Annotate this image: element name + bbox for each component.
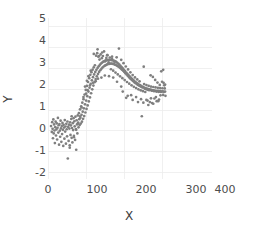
scatter-point (69, 121, 72, 124)
data-points (50, 47, 167, 160)
scatter-point (65, 128, 68, 131)
y-tick-label: -2 (6, 167, 46, 178)
scatter-point (96, 48, 99, 51)
scatter-point (53, 123, 56, 126)
scatter-point (98, 55, 101, 58)
scatter-point (75, 129, 78, 132)
scatter-point (84, 103, 87, 106)
scatter-point (124, 65, 127, 68)
scatter-point (89, 69, 92, 72)
scatter-point (115, 56, 118, 59)
scatter-point (119, 75, 122, 78)
scatter-point (131, 74, 134, 77)
scatter-point (55, 134, 58, 137)
scatter-point (89, 96, 92, 99)
scatter-point (126, 81, 129, 84)
scatter-point (162, 69, 165, 72)
scatter-point (89, 84, 92, 87)
plot-area (48, 18, 212, 179)
scatter-point (64, 125, 67, 128)
scatter-point (118, 47, 121, 50)
y-tick-label: -1 (6, 145, 46, 156)
scatter-point (66, 120, 69, 123)
scatter-point (67, 140, 70, 143)
scatter-point (59, 119, 62, 122)
scatter-point (91, 79, 94, 82)
scatter-point (163, 87, 166, 90)
scatter-point (155, 96, 158, 99)
scatter-point (79, 115, 82, 118)
scatter-point (75, 148, 78, 151)
scatter-point (56, 138, 59, 141)
scatter-point (145, 99, 148, 102)
scatter-point (62, 145, 65, 148)
scatter-point (94, 64, 97, 67)
scatter-point (120, 85, 123, 88)
scatter-point (100, 76, 103, 79)
y-tick-label: 5 (6, 13, 46, 24)
scatter-point (68, 127, 71, 130)
scatter-point (123, 79, 126, 82)
scatter-point (84, 85, 87, 88)
scatter-point (134, 76, 137, 79)
scatter-point (72, 129, 75, 132)
scatter-point (65, 122, 68, 125)
plot-canvas (48, 18, 212, 179)
scatter-point (88, 86, 91, 89)
scatter-point (87, 75, 90, 78)
scatter-point (150, 85, 153, 88)
scatter-point (158, 84, 161, 87)
scatter-point (86, 95, 89, 98)
x-tick-label: 200 (126, 184, 166, 195)
scatter-point (91, 88, 94, 91)
scatter-point (73, 125, 76, 128)
scatter-point (122, 62, 125, 65)
scatter-point (142, 101, 145, 104)
scatter-point (60, 140, 63, 143)
scatter-point (93, 73, 96, 76)
scatter-point (62, 129, 65, 132)
scatter-point (164, 83, 167, 86)
scatter-point (120, 58, 123, 61)
scatter-point (130, 84, 133, 87)
scatter-point (152, 102, 155, 105)
scatter-point (121, 90, 124, 93)
scatter-point (129, 71, 132, 74)
scatter-point (92, 53, 95, 56)
scatter-point (81, 110, 84, 113)
scatter-point (68, 146, 71, 149)
scatter-point (121, 77, 124, 80)
scatter-point (70, 115, 73, 118)
scatter-point (92, 84, 95, 87)
scatter-point (70, 136, 73, 139)
scatter-point (97, 77, 100, 80)
scatter-point (127, 68, 130, 71)
scatter-point (74, 115, 77, 118)
scatter-point (132, 85, 135, 88)
scatter-point (98, 58, 101, 61)
scatter-point (150, 97, 153, 100)
scatter-chart: 5 4 3 2 1 0 -1 -2 0 100 200 300 400 X Y (0, 0, 258, 237)
scatter-point (164, 94, 167, 97)
scatter-point (156, 86, 159, 89)
scatter-point (56, 126, 59, 129)
scatter-point (149, 74, 152, 77)
scatter-point (156, 81, 159, 84)
x-tick-label: 100 (77, 184, 117, 195)
scatter-point (59, 135, 62, 138)
scatter-point (52, 132, 55, 135)
scatter-point (58, 123, 61, 126)
scatter-point (84, 111, 87, 114)
scatter-point (66, 157, 69, 160)
scatter-point (110, 68, 113, 71)
scatter-point (92, 81, 95, 84)
scatter-point (140, 98, 143, 101)
scatter-point (85, 92, 88, 95)
scatter-point (154, 86, 157, 89)
scatter-point (64, 130, 67, 133)
y-tick-label: 3 (6, 57, 46, 68)
scatter-point (86, 79, 89, 82)
scatter-point (144, 91, 147, 94)
x-tick-label: 400 (205, 184, 245, 195)
scatter-point (85, 99, 88, 102)
